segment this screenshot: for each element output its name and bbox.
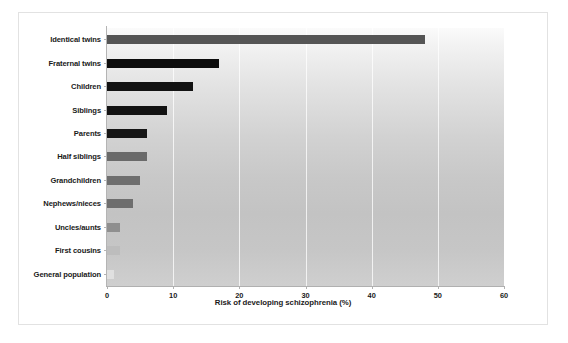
category-label: Grandchildren: [50, 176, 101, 185]
y-axis-tick: [104, 156, 107, 157]
bar-row: Grandchildren: [107, 169, 504, 192]
bar: [107, 152, 147, 161]
bar-row: Parents: [107, 122, 504, 145]
x-axis-tick: [504, 286, 505, 289]
y-axis-tick: [104, 180, 107, 181]
bar-row: General population: [107, 263, 504, 286]
y-axis-tick: [104, 63, 107, 64]
y-axis-tick: [104, 227, 107, 228]
bar: [107, 35, 425, 44]
bar: [107, 59, 219, 68]
category-label: Siblings: [72, 106, 101, 115]
bar: [107, 176, 140, 185]
y-axis-tick: [104, 203, 107, 204]
bar-row: First cousins: [107, 239, 504, 262]
y-axis-tick: [104, 133, 107, 134]
bar: [107, 106, 167, 115]
bar-row: Uncles/aunts: [107, 216, 504, 239]
y-axis-tick: [104, 250, 107, 251]
x-axis-tick: [107, 286, 108, 289]
x-axis-tick: [239, 286, 240, 289]
bar-row: Nephews/nieces: [107, 192, 504, 215]
y-axis-tick: [104, 274, 107, 275]
bar: [107, 223, 120, 232]
bar-row: Siblings: [107, 98, 504, 121]
bar: [107, 270, 114, 279]
chart-figure: Identical twinsFraternal twinsChildrenSi…: [18, 12, 548, 325]
category-label: Nephews/nieces: [43, 199, 101, 208]
bar: [107, 246, 120, 255]
gridline-60: [504, 28, 505, 286]
bar-row: Children: [107, 75, 504, 98]
bar: [107, 199, 133, 208]
bar-row: Fraternal twins: [107, 51, 504, 74]
bar-row: Identical twins: [107, 28, 504, 51]
x-axis-tick: [372, 286, 373, 289]
category-label: Half siblings: [57, 152, 101, 161]
category-label: Parents: [74, 129, 101, 138]
category-label: Uncles/aunts: [55, 223, 101, 232]
y-axis-tick: [104, 86, 107, 87]
category-label: First cousins: [55, 246, 101, 255]
x-axis-title: Risk of developing schizophrenia (%): [19, 298, 547, 307]
x-axis-tick: [438, 286, 439, 289]
bar: [107, 82, 193, 91]
x-axis-tick: [306, 286, 307, 289]
plot-wrap: Identical twinsFraternal twinsChildrenSi…: [107, 28, 504, 286]
category-label: Children: [71, 82, 101, 91]
bar: [107, 129, 147, 138]
category-label: General population: [34, 270, 101, 279]
y-axis-tick: [104, 110, 107, 111]
category-label: Fraternal twins: [48, 59, 101, 68]
bar-row: Half siblings: [107, 145, 504, 168]
x-axis-tick: [173, 286, 174, 289]
y-axis-tick: [104, 39, 107, 40]
category-label: Identical twins: [50, 35, 101, 44]
